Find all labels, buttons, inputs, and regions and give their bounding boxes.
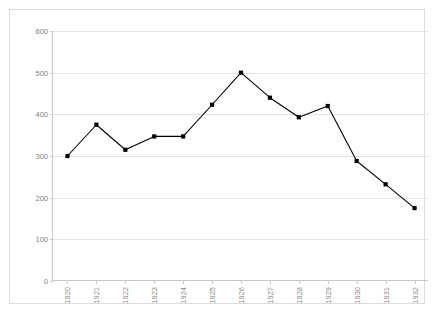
data-point-marker — [297, 115, 301, 119]
x-tick-label: 1930 — [352, 287, 361, 304]
data-point-marker — [123, 148, 127, 152]
data-point-marker — [152, 134, 156, 138]
data-point-marker — [384, 182, 388, 186]
data-point-marker — [326, 104, 330, 108]
x-tick-label: 1926 — [237, 287, 246, 304]
x-tick-label: 1920 — [63, 287, 72, 304]
x-tick-mark — [328, 281, 329, 284]
x-tick-label: 1932 — [410, 287, 419, 304]
x-tick-mark — [270, 281, 271, 284]
y-tick-label: 500 — [35, 68, 48, 77]
data-point-marker — [239, 71, 243, 75]
data-series-line — [53, 31, 429, 281]
data-point-marker — [181, 134, 185, 138]
x-tick-mark — [67, 281, 68, 284]
data-point-marker — [94, 123, 98, 127]
x-tick-mark — [212, 281, 213, 284]
data-point-marker — [355, 159, 359, 163]
x-tick-mark — [125, 281, 126, 284]
data-point-marker — [412, 206, 416, 210]
x-tick-label: 1931 — [381, 287, 390, 304]
y-tick-label: 100 — [35, 235, 48, 244]
x-tick-label: 1925 — [208, 287, 217, 304]
x-tick-label: 1924 — [179, 287, 188, 304]
y-tick-label: 300 — [35, 152, 48, 161]
x-tick-mark — [96, 281, 97, 284]
x-tick-mark — [357, 281, 358, 284]
y-tick-label: 0 — [44, 277, 48, 286]
y-tick-mark — [50, 281, 53, 282]
data-point-marker — [65, 154, 69, 158]
x-tick-mark — [241, 281, 242, 284]
x-tick-mark — [183, 281, 184, 284]
x-tick-mark — [299, 281, 300, 284]
y-tick-label: 400 — [35, 110, 48, 119]
plot-area: 0100200300400500600 19201921192219231924… — [52, 31, 428, 281]
x-tick-label: 1929 — [323, 287, 332, 304]
x-tick-mark — [386, 281, 387, 284]
chart-title-clipped — [10, 4, 435, 10]
x-tick-label: 1928 — [294, 287, 303, 304]
y-tick-label: 600 — [35, 27, 48, 36]
series-polyline — [67, 73, 414, 208]
x-tick-mark — [415, 281, 416, 284]
series-markers-group — [65, 71, 416, 211]
data-point-marker — [268, 96, 272, 100]
x-tick-label: 1923 — [150, 287, 159, 304]
y-tick-label: 200 — [35, 193, 48, 202]
x-tick-label: 1922 — [121, 287, 130, 304]
x-tick-mark — [154, 281, 155, 284]
x-tick-label: 1921 — [92, 287, 101, 304]
chart-frame: 0100200300400500600 19201921192219231924… — [9, 9, 425, 304]
x-tick-label: 1927 — [265, 287, 274, 304]
data-point-marker — [210, 103, 214, 107]
